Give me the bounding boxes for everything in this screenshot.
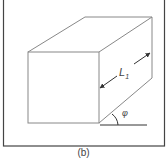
angle-label: φ xyxy=(122,108,128,118)
top-face xyxy=(28,17,152,52)
dimension-arrow-upper xyxy=(134,53,150,64)
figure-caption: (b) xyxy=(0,147,167,159)
angle-arc xyxy=(112,114,118,125)
dimension-arrow-lower xyxy=(100,76,117,88)
length-label: L1 xyxy=(119,66,129,80)
front-face xyxy=(28,52,99,123)
block-diagram: L1 φ xyxy=(0,0,167,159)
